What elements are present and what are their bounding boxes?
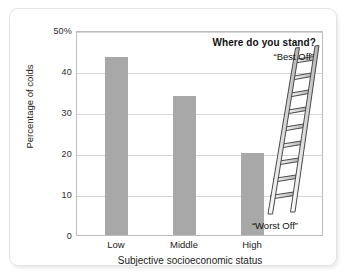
y-axis-ticks: 50% 40 30 20 10 0 <box>40 31 72 236</box>
x-tick-label: Middle <box>153 239 215 250</box>
y-tick-label: 50% <box>53 26 72 36</box>
x-tick-label: High <box>221 239 283 250</box>
plot-inner: Where do you stand? “Best Off” “Worst Of… <box>77 32 322 235</box>
annotation-where-do-you-stand: Where do you stand? <box>212 37 316 48</box>
y-tick-label: 40 <box>62 67 72 77</box>
y-tick-label: 10 <box>62 190 72 200</box>
ladder-icon <box>237 42 327 222</box>
y-axis-label: Percentage of colds <box>24 52 35 162</box>
gridline <box>77 32 322 33</box>
x-tick-label: Low <box>85 239 147 250</box>
x-axis-ticks: Low Middle High <box>76 239 323 253</box>
bar-middle <box>173 96 196 235</box>
y-tick-label: 20 <box>62 149 72 159</box>
bar-low <box>105 57 128 235</box>
ladder-illustration <box>237 42 327 222</box>
annotation-worst-off: “Worst Off” <box>252 220 298 231</box>
chart-figure: Percentage of colds 50% 40 30 20 10 0 <box>0 0 349 280</box>
x-axis-label: Subjective socioeconomic status <box>50 255 330 266</box>
y-tick-label: 0 <box>67 231 72 241</box>
chart-card: Percentage of colds 50% 40 30 20 10 0 <box>9 8 337 266</box>
y-tick-label: 30 <box>62 108 72 118</box>
annotation-best-off: “Best Off” <box>274 51 314 62</box>
plot-area: Where do you stand? “Best Off” “Worst Of… <box>76 31 323 236</box>
